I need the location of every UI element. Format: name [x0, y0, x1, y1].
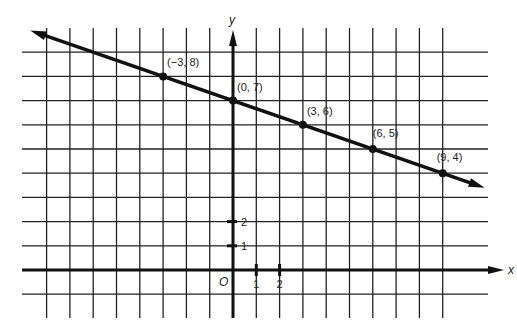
data-points: (−3, 8)(0, 7)(3, 6)(6, 5)(9, 4): [159, 56, 462, 177]
data-point-label: (0, 7): [237, 81, 263, 93]
data-point: [439, 169, 447, 177]
line-y-equals-neg-x-over-3-plus-7: [40, 34, 474, 185]
x-axis-label: x: [507, 263, 515, 277]
data-point: [369, 145, 377, 153]
data-point-label: (−3, 8): [167, 56, 199, 68]
y-axis-arrow-icon: [229, 30, 237, 46]
line-arrow-left-icon: [30, 30, 47, 39]
line-arrow-right-icon: [468, 178, 485, 187]
x-tick-label: 1: [253, 278, 259, 290]
origin-label: O: [219, 275, 228, 289]
x-tick-label: 2: [277, 278, 283, 290]
y-tick-label: 2: [241, 216, 247, 228]
coordinate-plane: 1212 (−3, 8)(0, 7)(3, 6)(6, 5)(9, 4) x y…: [0, 0, 517, 336]
y-axis-label: y: [228, 13, 236, 27]
data-point-label: (3, 6): [307, 105, 333, 117]
data-point: [299, 121, 307, 129]
data-line: [30, 30, 484, 187]
x-axis-arrow-icon: [488, 266, 504, 274]
data-point: [229, 97, 237, 105]
data-point-label: (6, 5): [373, 127, 399, 139]
data-point: [159, 72, 167, 80]
axis-ticks: 1212: [227, 216, 283, 290]
y-tick-label: 1: [241, 240, 247, 252]
data-point-label: (9, 4): [437, 151, 463, 163]
axes: [22, 30, 504, 318]
